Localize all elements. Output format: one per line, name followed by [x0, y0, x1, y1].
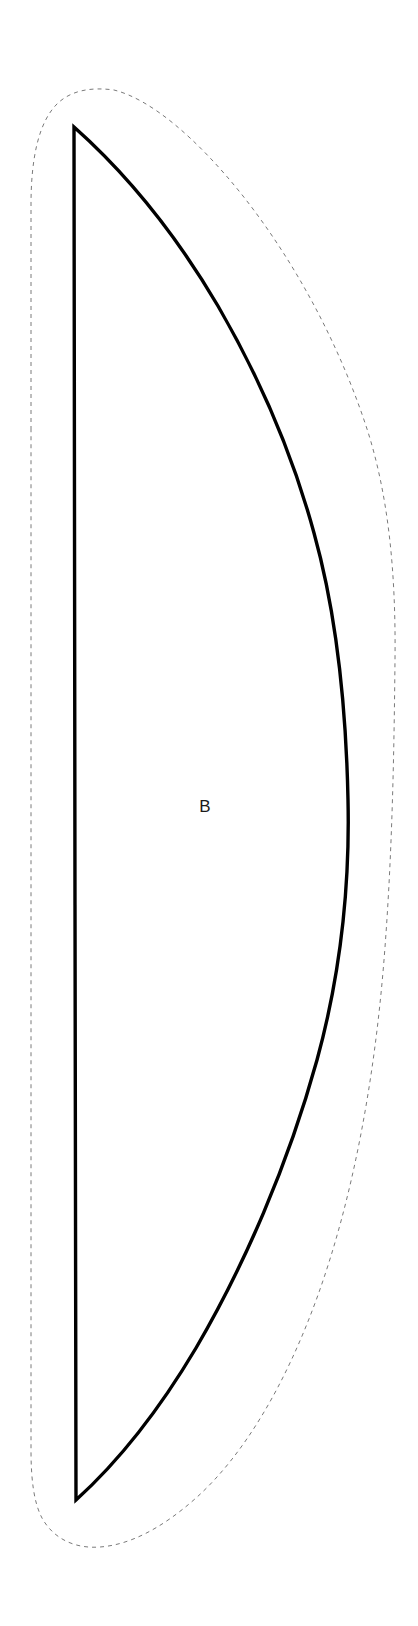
pattern-sheet: B [0, 0, 418, 1626]
seam-allowance-outline [31, 89, 395, 1547]
pattern-drawing: B [0, 0, 418, 1626]
cut-line-outline [74, 127, 348, 1500]
piece-label-b: B [199, 797, 210, 816]
